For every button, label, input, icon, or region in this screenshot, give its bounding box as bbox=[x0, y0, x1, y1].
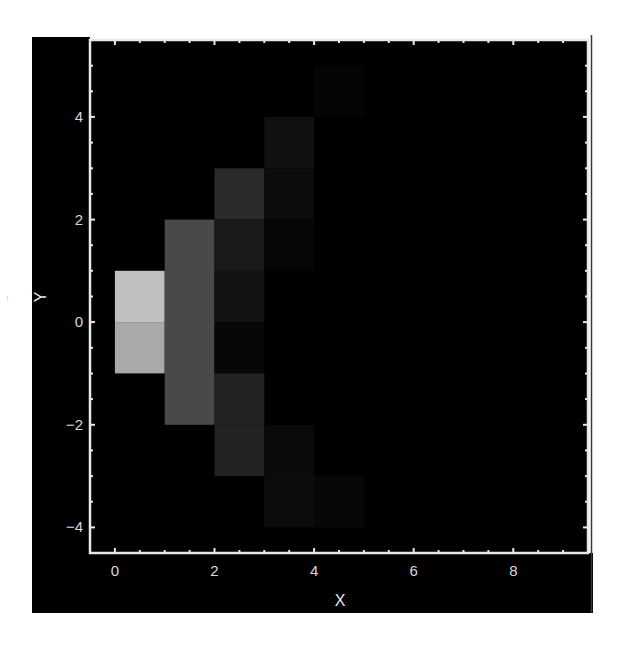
y-tick-label: −2 bbox=[66, 416, 83, 433]
x-tick-label: 8 bbox=[509, 562, 517, 579]
heatmap-cell bbox=[264, 425, 314, 476]
heatmap-cell bbox=[215, 271, 265, 322]
y-tick-label: 2 bbox=[75, 211, 83, 228]
heatmap-cell bbox=[115, 271, 165, 322]
y-tick-label: 4 bbox=[75, 108, 83, 125]
heatmap-cell bbox=[314, 476, 364, 527]
y-tick-label: −4 bbox=[66, 518, 83, 535]
heatmap-cell bbox=[264, 220, 314, 271]
plot-area bbox=[90, 40, 588, 553]
heatmap-cell bbox=[264, 476, 314, 527]
x-tick-label: 0 bbox=[111, 562, 119, 579]
heatmap-cell bbox=[165, 220, 215, 425]
x-axis-label: X bbox=[335, 592, 346, 609]
heatmap-cell bbox=[115, 322, 165, 373]
y-axis-label: Y bbox=[32, 291, 49, 302]
x-tick-label: 6 bbox=[410, 562, 418, 579]
heatmap-cell bbox=[215, 322, 265, 373]
y-tick-label: 0 bbox=[75, 313, 83, 330]
heatmap-figure: 02468−4−2024 X Y bbox=[0, 0, 623, 660]
x-tick-label: 2 bbox=[210, 562, 218, 579]
heatmap-cell bbox=[314, 66, 364, 117]
heatmap-cell bbox=[215, 425, 265, 476]
heatmap-cell bbox=[215, 374, 265, 425]
heatmap-cell bbox=[264, 117, 314, 168]
x-tick-label: 4 bbox=[310, 562, 318, 579]
heatmap-cell bbox=[215, 220, 265, 271]
heatmap-cell bbox=[215, 168, 265, 219]
heatmap-cell bbox=[264, 168, 314, 219]
